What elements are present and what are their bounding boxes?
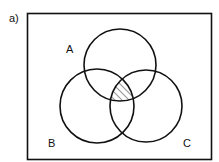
part-label: a) <box>9 12 19 24</box>
set-b-circle <box>60 69 134 143</box>
venn-diagram: a) A B C <box>0 0 219 162</box>
set-a-label: A <box>66 43 74 55</box>
set-b-label: B <box>48 137 55 149</box>
set-c-label: C <box>183 137 191 149</box>
set-c-circle <box>110 70 182 142</box>
